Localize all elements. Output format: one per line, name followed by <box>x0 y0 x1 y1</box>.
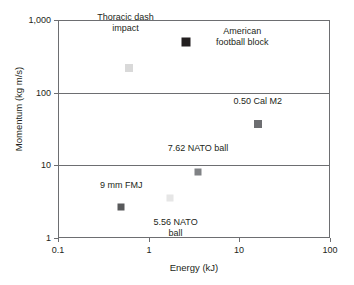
y-axis-title: Momentum (kg m/s) <box>12 0 26 218</box>
x-tick-label: 1 <box>146 246 151 255</box>
gridline <box>58 93 330 94</box>
y-tick-mark <box>54 165 58 166</box>
data-point-0-50-cal-m2 <box>254 120 262 128</box>
data-point-thoracic-dash-impact <box>125 64 133 72</box>
data-label-5-56-nato-ball: 5.56 NATO ball <box>153 217 197 239</box>
x-tick-mark <box>239 238 240 242</box>
y-tick-mark <box>54 93 58 94</box>
y-tick-label: 1 <box>46 234 51 243</box>
y-tick-label: 10 <box>41 161 51 170</box>
data-point-7-62-nato-ball <box>194 168 201 175</box>
data-point-american-football-block <box>182 37 191 46</box>
x-tick-mark <box>330 238 331 242</box>
data-label-9-mm-fmj: 9 mm FMJ <box>100 180 143 191</box>
x-tick-label: 10 <box>234 246 244 255</box>
data-label-american-football-block: American football block <box>216 26 269 48</box>
y-tick-label: 1,000 <box>28 16 51 25</box>
x-tick-label: 0.1 <box>52 246 65 255</box>
plot-area <box>58 20 330 238</box>
y-tick-mark <box>54 20 58 21</box>
x-tick-mark <box>149 238 150 242</box>
y-tick-label: 100 <box>36 89 51 98</box>
gridline <box>58 165 330 166</box>
data-point-5-56-nato-ball <box>166 195 173 202</box>
x-axis-title: Energy (kJ) <box>58 262 330 274</box>
data-label-7-62-nato-ball: 7.62 NATO ball <box>168 143 229 154</box>
x-tick-mark <box>58 238 59 242</box>
data-label-0-50-cal-m2: 0.50 Cal M2 <box>234 96 283 107</box>
data-point-9-mm-fmj <box>118 203 125 210</box>
x-tick-label: 100 <box>322 246 337 255</box>
data-label-thoracic-dash-impact: Thoracic dash impact <box>97 12 154 34</box>
scatter-chart: Momentum (kg m/s) 1101001,000 0.1110100 … <box>0 0 354 285</box>
